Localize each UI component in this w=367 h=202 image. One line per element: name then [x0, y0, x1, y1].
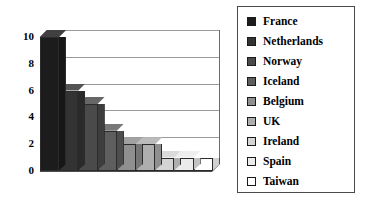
legend-swatch-icon [247, 137, 256, 146]
legend-item-label: France [263, 16, 297, 27]
legend-swatch-icon [247, 157, 256, 166]
legend-item[interactable]: Belgium [247, 94, 304, 108]
legend-item[interactable]: France [247, 14, 297, 28]
legend-item-label: Ireland [263, 136, 299, 147]
bar-side-face [77, 91, 85, 171]
legend-item-label: Netherlands [263, 36, 323, 47]
bar-top-face [40, 30, 66, 37]
legend-item[interactable]: Netherlands [247, 34, 323, 48]
y-axis-tick-label: 2 [16, 138, 34, 149]
legend-item-label: Iceland [263, 76, 299, 87]
y-axis-tick-label: 0 [16, 165, 34, 176]
gridline [47, 57, 219, 58]
legend-item[interactable]: UK [247, 114, 280, 128]
legend-item-label: Belgium [263, 96, 304, 107]
legend-swatch-icon [247, 57, 256, 66]
legend-item-label: Taiwan [263, 176, 299, 187]
legend-item[interactable]: Taiwan [247, 174, 299, 188]
bar-column [40, 30, 59, 171]
chart-screenshot: 0246810 FranceNetherlandsNorwayIcelandBe… [0, 0, 367, 202]
legend-item[interactable]: Iceland [247, 74, 299, 88]
bar-side-face [58, 37, 66, 171]
legend-item[interactable]: Spain [247, 154, 291, 168]
y-axis-tick-label: 6 [16, 85, 34, 96]
legend-box: FranceNetherlandsNorwayIcelandBelgiumUKI… [237, 6, 355, 193]
plot-right-edge [219, 30, 220, 164]
bar-side-face [97, 104, 105, 171]
legend-swatch-icon [247, 97, 256, 106]
bar-side-face [116, 131, 124, 171]
legend-item-label: Spain [263, 156, 291, 167]
legend-item-label: Norway [263, 56, 302, 67]
legend-item[interactable]: Ireland [247, 134, 299, 148]
y-axis-tick-label: 8 [16, 58, 34, 69]
bar-side-face [212, 158, 220, 171]
legend-swatch-icon [247, 77, 256, 86]
legend-swatch-icon [247, 37, 256, 46]
y-axis-tick-label: 4 [16, 111, 34, 122]
floor-front-edge [40, 171, 212, 172]
legend-swatch-icon [247, 17, 256, 26]
legend-swatch-icon [247, 177, 256, 186]
legend-item-label: UK [263, 116, 280, 127]
legend-item[interactable]: Norway [247, 54, 302, 68]
bar-chart: 0246810 [0, 0, 232, 202]
legend-swatch-icon [247, 117, 256, 126]
bar-front-face [40, 37, 59, 171]
y-axis-tick-label: 10 [16, 31, 34, 42]
gridline [47, 30, 219, 31]
